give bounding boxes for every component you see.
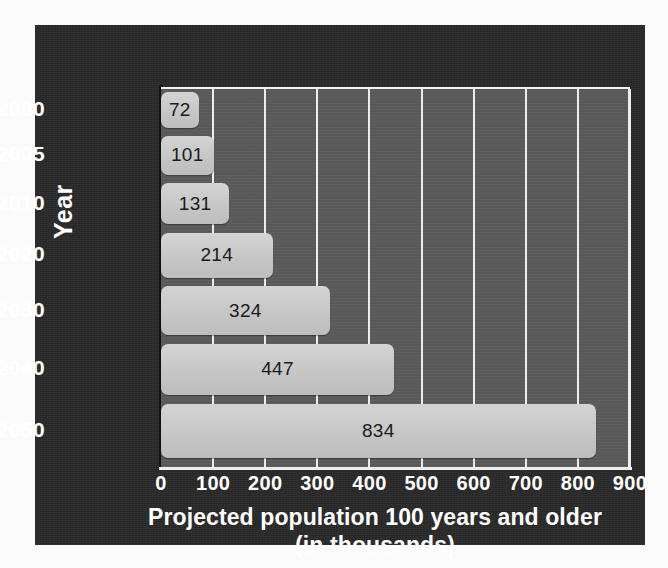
bar-row: 834 xyxy=(161,404,630,458)
bar-row: 72 xyxy=(161,92,630,128)
y-tick-label-2030: 2030 xyxy=(0,298,45,322)
chart-figure: Year 72101131214324447834 01002003004005… xyxy=(0,0,668,568)
y-tick-label-2050: 2050 xyxy=(0,418,45,442)
bar-row: 447 xyxy=(161,344,630,396)
x-tick-label-700: 700 xyxy=(509,472,543,495)
x-tick-label-600: 600 xyxy=(457,472,491,495)
x-tick-label-200: 200 xyxy=(248,472,282,495)
x-axis-title-line1: Projected population 100 years and older xyxy=(148,504,602,530)
x-tick-label-800: 800 xyxy=(561,472,595,495)
x-tick-label-0: 0 xyxy=(155,472,166,495)
bar-2010[interactable]: 131 xyxy=(161,183,229,224)
bar-2030[interactable]: 324 xyxy=(161,286,330,335)
bar-value-label-2020: 214 xyxy=(200,244,233,266)
x-tick-label-300: 300 xyxy=(300,472,334,495)
y-tick-label-2005: 2005 xyxy=(0,142,45,166)
bar-2040[interactable]: 447 xyxy=(161,344,394,396)
bar-value-label-2010: 131 xyxy=(179,193,212,215)
bar-row: 324 xyxy=(161,286,630,335)
bar-2005[interactable]: 101 xyxy=(161,136,214,174)
y-tick-label-2010: 2010 xyxy=(0,191,45,215)
bar-2020[interactable]: 214 xyxy=(161,233,273,278)
y-tick-label-2020: 2020 xyxy=(0,242,45,266)
bar-row: 131 xyxy=(161,183,630,224)
chart-panel: Year 72101131214324447834 01002003004005… xyxy=(35,25,645,545)
x-tick-label-400: 400 xyxy=(352,472,386,495)
bar-value-label-2040: 447 xyxy=(261,358,294,380)
x-tick-label-900: 900 xyxy=(613,472,647,495)
x-tick-label-500: 500 xyxy=(404,472,438,495)
x-axis-tick-labels: 0100200300400500600700800900 xyxy=(161,472,630,500)
y-axis-title: Year xyxy=(49,184,78,239)
x-axis-line xyxy=(159,467,632,470)
x-axis-title-line2: (in thousands) xyxy=(75,531,668,559)
x-axis-title: Projected population 100 years and older… xyxy=(75,503,668,559)
bar-2050[interactable]: 834 xyxy=(161,404,596,458)
bar-value-label-2000: 72 xyxy=(169,99,191,121)
bar-value-label-2030: 324 xyxy=(229,300,262,322)
x-tick-label-100: 100 xyxy=(196,472,230,495)
bar-value-label-2005: 101 xyxy=(171,144,204,166)
bar-value-label-2050: 834 xyxy=(362,420,395,442)
bar-series: 72101131214324447834 xyxy=(161,87,630,467)
y-tick-label-2040: 2040 xyxy=(0,356,45,380)
bar-2000[interactable]: 72 xyxy=(161,92,199,128)
bar-row: 214 xyxy=(161,233,630,278)
y-tick-label-2000: 2000 xyxy=(0,97,45,121)
bar-row: 101 xyxy=(161,136,630,174)
